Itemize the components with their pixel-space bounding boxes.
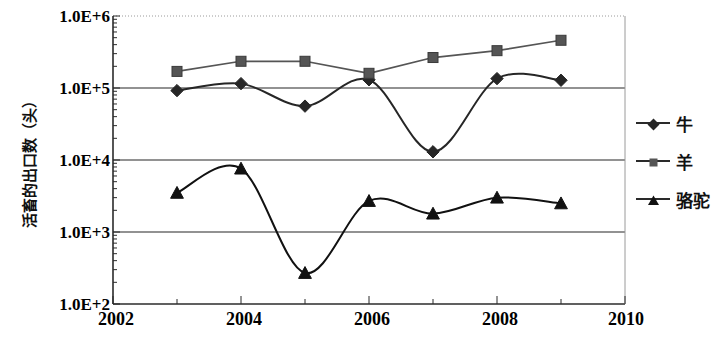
data-point-marker [427,146,439,158]
chart-root: 活畜的出口数（头） 1.0E+6 1.0E+5 1.0E+4 1.0E+3 1.… [0,0,715,347]
legend-item-cattle[interactable]: 牛 [636,104,710,142]
data-point-marker [555,74,567,86]
data-point-marker [171,186,184,198]
legend-label-camel: 骆驼 [676,187,710,212]
data-point-marker [363,195,376,207]
data-point-marker [556,35,566,45]
triangle-marker-icon [636,192,670,206]
data-point-marker [299,100,311,112]
square-marker-icon [636,154,670,168]
data-point-marker [300,56,310,66]
series-sheep [172,35,566,78]
legend-item-sheep[interactable]: 羊 [636,142,710,180]
diamond-marker-icon [636,116,670,130]
data-point-marker [235,162,248,174]
data-series-layer [171,35,568,278]
legend-label-cattle: 牛 [676,111,693,136]
legend-label-sheep: 羊 [676,149,693,174]
data-point-marker [171,84,183,96]
series-cattle [171,72,567,158]
plot-area [0,0,715,347]
data-point-marker [172,66,182,76]
data-point-marker [364,68,374,78]
data-point-marker [428,53,438,63]
series-camel [171,162,568,278]
data-point-marker [236,56,246,66]
legend-item-camel[interactable]: 骆驼 [636,180,710,218]
data-point-marker [492,46,502,56]
legend: 牛 羊 骆驼 [636,104,710,218]
